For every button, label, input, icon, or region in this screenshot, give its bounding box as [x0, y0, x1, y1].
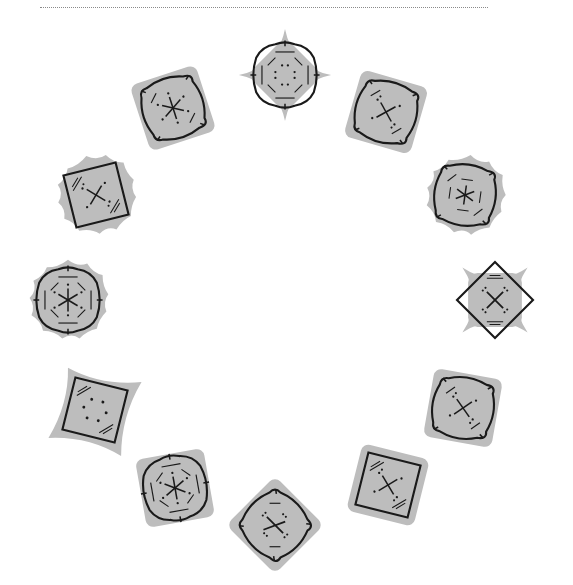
ornament-tile [48, 147, 144, 243]
ornament-icon [447, 252, 543, 348]
dotted-divider [40, 7, 488, 8]
ornament-tile [237, 27, 333, 123]
ornament-tile [227, 477, 323, 573]
ornament-icon [127, 440, 223, 536]
ornament-icon [417, 147, 513, 243]
ornament-icon [227, 477, 323, 573]
ornament-tile [338, 64, 434, 160]
ornament-icon [20, 252, 116, 348]
ornament-tile [447, 252, 543, 348]
ornament-icon [125, 60, 221, 156]
ornament-icon [338, 64, 434, 160]
ornament-tile [340, 437, 436, 533]
ornament-icon [340, 437, 436, 533]
ornament-tile [20, 252, 116, 348]
ornament-icon [237, 27, 333, 123]
ornament-tile [417, 147, 513, 243]
ornament-icon [48, 147, 144, 243]
ornament-tile [127, 440, 223, 536]
ornament-tile [125, 60, 221, 156]
